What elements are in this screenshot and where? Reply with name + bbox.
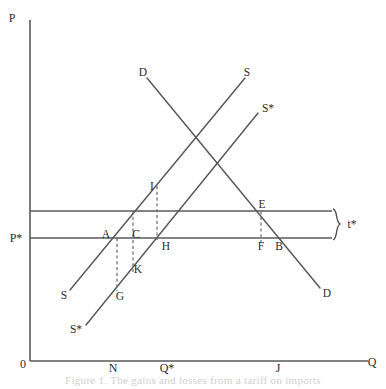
supply-star-bottom-label: S* bbox=[70, 323, 82, 335]
demand-curve bbox=[147, 78, 320, 288]
point-label-G: G bbox=[116, 290, 124, 302]
point-label-I: I bbox=[150, 180, 154, 192]
demand-top-label: D bbox=[139, 66, 147, 78]
supply-demand-figure: P Q 0 N Q* J P* D D S S S* S* A C I H K … bbox=[0, 0, 386, 389]
supply-star-top-label: S* bbox=[262, 102, 274, 114]
point-label-B: B bbox=[275, 240, 283, 252]
point-label-A: A bbox=[102, 228, 111, 240]
tariff-label: t* bbox=[348, 218, 357, 230]
tariff-brace bbox=[333, 209, 340, 240]
point-label-C: C bbox=[132, 228, 140, 240]
y-axis-label: P bbox=[9, 11, 16, 25]
point-label-E: E bbox=[258, 198, 265, 210]
origin-label: 0 bbox=[20, 357, 26, 371]
x-axis-label: Q bbox=[368, 355, 377, 369]
figure-caption: Figure 1. The gains and losses from a ta… bbox=[0, 372, 386, 389]
axes-group bbox=[30, 20, 368, 361]
point-label-H: H bbox=[162, 240, 170, 252]
supply-curve bbox=[70, 78, 245, 290]
y-tick-Pstar: P* bbox=[10, 231, 23, 245]
supply-bottom-label: S bbox=[61, 289, 67, 301]
point-label-K: K bbox=[134, 263, 143, 275]
demand-bottom-label: D bbox=[323, 287, 331, 299]
supply-star-curve bbox=[86, 113, 258, 325]
point-label-F: F bbox=[258, 240, 264, 252]
supply-top-label: S bbox=[244, 66, 250, 78]
chart-canvas: P Q 0 N Q* J P* D D S S S* S* A C I H K … bbox=[0, 0, 386, 389]
